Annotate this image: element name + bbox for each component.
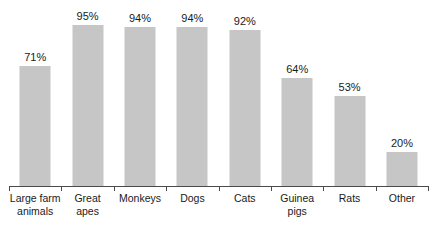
axis-label-line: Guinea [271, 192, 323, 205]
bar[interactable] [177, 27, 208, 186]
bar-value-label: 64% [286, 63, 308, 75]
bar[interactable] [124, 27, 155, 186]
axis-label-line: Cats [219, 192, 271, 205]
axis-label-line: pigs [271, 205, 323, 218]
axis-tick [219, 186, 220, 191]
bar-slot: 95% [61, 0, 113, 186]
bar-slot: 53% [323, 0, 375, 186]
axis-label-line: apes [61, 205, 113, 218]
plot-area: 71% 95% 94% 94% 92% 64% 53% 20% [9, 0, 429, 186]
axis-label-line: Great [61, 192, 113, 205]
axis-tick [323, 186, 324, 191]
bar-chart: 71% 95% 94% 94% 92% 64% 53% 20% [0, 0, 439, 232]
axis-label-monkeys: Monkeys [114, 192, 166, 205]
bar[interactable] [334, 96, 365, 186]
axis-label-line: Monkeys [114, 192, 166, 205]
axis-label-line: Dogs [166, 192, 218, 205]
axis-label-line: animals [9, 205, 61, 218]
bar-value-label: 94% [129, 12, 151, 24]
bar-value-label: 94% [181, 12, 203, 24]
axis-tick [376, 186, 377, 191]
bar[interactable] [72, 25, 103, 186]
bar-value-label: 95% [77, 10, 99, 22]
bar-slot: 71% [9, 0, 61, 186]
bar-value-label: 92% [234, 15, 256, 27]
bar-value-label: 53% [339, 81, 361, 93]
axis-tick [166, 186, 167, 191]
axis-label-line: Other [376, 192, 428, 205]
axis-tick [428, 186, 429, 191]
bar-slot: 20% [376, 0, 428, 186]
axis-label-line: Large farm [9, 192, 61, 205]
bar-slot: 64% [271, 0, 323, 186]
bar-value-label: 71% [24, 51, 46, 63]
bar-value-label: 20% [391, 137, 413, 149]
bar[interactable] [282, 78, 313, 186]
bar-slot: 94% [166, 0, 218, 186]
axis-label-other: Other [376, 192, 428, 205]
axis-label-line: Rats [323, 192, 375, 205]
axis-label-guinea-pigs: Guinea pigs [271, 192, 323, 218]
axis-label-large-farm-animals: Large farm animals [9, 192, 61, 218]
bar-slot: 94% [114, 0, 166, 186]
bar[interactable] [386, 152, 417, 186]
axis-tick [271, 186, 272, 191]
axis-label-cats: Cats [219, 192, 271, 205]
axis-label-rats: Rats [323, 192, 375, 205]
bar[interactable] [229, 30, 260, 186]
bar[interactable] [20, 66, 51, 186]
axis-tick [9, 186, 10, 191]
axis-label-great-apes: Great apes [61, 192, 113, 218]
x-axis-labels: Large farm animals Great apes Monkeys Do… [9, 192, 429, 232]
axis-tick [61, 186, 62, 191]
axis-label-dogs: Dogs [166, 192, 218, 205]
bar-slot: 92% [219, 0, 271, 186]
axis-tick [114, 186, 115, 191]
